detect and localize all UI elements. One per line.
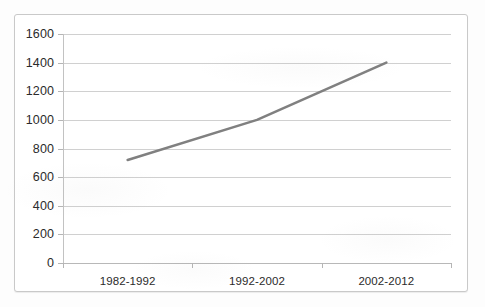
y-axis-label: 600 — [33, 170, 54, 184]
y-axis-label: 200 — [33, 227, 54, 241]
x-tick-0 — [63, 263, 64, 268]
y-axis-label: 1600 — [26, 27, 54, 41]
chart-frame: 02004006008001000120014001600 1982-19921… — [14, 14, 468, 292]
x-axis-label-2: 2002-2012 — [358, 275, 414, 287]
x-axis-label-1: 1992-2002 — [229, 275, 285, 287]
y-axis-label: 1200 — [26, 84, 54, 98]
x-axis-label-0: 1982-1992 — [100, 275, 156, 287]
x-tick-2 — [322, 263, 323, 268]
x-tick-1 — [192, 263, 193, 268]
series-line-chart — [63, 34, 451, 263]
y-axis-label: 800 — [33, 142, 54, 156]
plot-area: 02004006008001000120014001600 1982-19921… — [63, 34, 451, 263]
chart-screenshot: 02004006008001000120014001600 1982-19921… — [0, 0, 485, 307]
gridline-0 — [63, 263, 451, 264]
series-polyline — [128, 63, 387, 160]
y-axis-label: 0 — [47, 256, 54, 270]
y-axis-label: 400 — [33, 199, 54, 213]
y-axis-label: 1400 — [26, 56, 54, 70]
y-axis-label: 1000 — [26, 113, 54, 127]
x-tick-3 — [451, 263, 452, 268]
